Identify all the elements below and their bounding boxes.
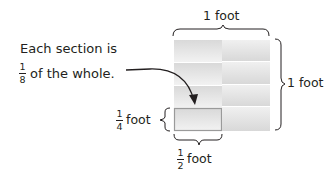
fraction-numerator: 1 — [116, 109, 122, 119]
height-fraction: 1 4 — [116, 109, 123, 131]
caption-text: of the whole. — [30, 67, 115, 80]
grid-cell — [174, 40, 222, 62]
top-brace — [173, 25, 269, 36]
right-height-label: 1 foot — [287, 77, 324, 90]
fraction-denominator: 8 — [19, 75, 25, 85]
top-width-label: 1 foot — [203, 10, 240, 23]
highlighted-cell — [175, 109, 222, 131]
unit-text: foot — [126, 114, 151, 127]
section-height-label: 1 4 foot — [116, 109, 151, 131]
caption-line-2: 1 8 of the whole. — [19, 62, 115, 84]
grid-cell — [174, 63, 222, 85]
diagram-graphics — [0, 0, 336, 187]
grid-cell — [222, 85, 270, 106]
grid-cell — [222, 62, 270, 84]
fraction-denominator: 2 — [177, 161, 183, 171]
unit-text: foot — [187, 153, 212, 166]
right-brace — [275, 39, 285, 130]
height-brace — [160, 108, 170, 131]
fraction-numerator: 1 — [177, 148, 183, 158]
grid — [174, 40, 270, 131]
fraction-numerator: 1 — [19, 62, 25, 72]
section-width-label: 1 2 foot — [177, 148, 212, 170]
grid-cell — [222, 107, 270, 131]
width-fraction: 1 2 — [177, 148, 184, 170]
caption-line-1: Each section is — [20, 42, 117, 55]
width-brace — [174, 134, 222, 145]
caption-fraction: 1 8 — [19, 62, 26, 84]
fraction-denominator: 4 — [116, 122, 122, 132]
grid-cell — [174, 86, 222, 108]
grid-cell — [222, 40, 270, 61]
